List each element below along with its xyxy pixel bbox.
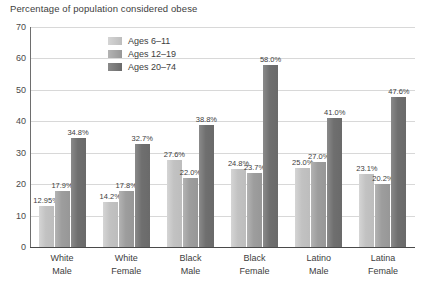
bar: 12.95%	[39, 206, 54, 247]
legend-swatch-icon	[108, 63, 122, 71]
bar-group: 25.0%27.0%41.0%	[295, 26, 342, 247]
chart-title: Percentage of population considered obes…	[10, 3, 197, 14]
y-axis-tick-label: 40	[16, 116, 26, 126]
x-axis-label: BlackMale	[158, 252, 222, 277]
bar: 34.8%	[71, 138, 86, 247]
y-axis-tick-label: 30	[16, 148, 26, 158]
bar-value-label: 22.0%	[180, 168, 201, 177]
bar: 47.6%	[391, 97, 406, 247]
x-axis-label-line: Male	[158, 265, 222, 278]
x-axis-label-line: Male	[30, 265, 94, 278]
x-axis-label-line: Latino	[287, 252, 351, 265]
y-axis-tick-label: 0	[21, 242, 26, 252]
bar: 32.7%	[135, 144, 150, 247]
x-axis-label: WhiteMale	[30, 252, 94, 277]
legend-label: Ages 6–11	[128, 36, 170, 46]
bar: 23.1%	[359, 174, 374, 247]
bar: 20.2%	[375, 184, 390, 247]
x-axis-label: BlackFemale	[223, 252, 287, 277]
x-axis-label-line: Black	[223, 252, 287, 265]
bar: 25.0%	[295, 168, 310, 247]
bar: 14.2%	[103, 202, 118, 247]
x-axis-label: LatinaFemale	[351, 252, 415, 277]
x-axis-label-line: Female	[223, 265, 287, 278]
bar: 22.0%	[183, 178, 198, 247]
y-axis-tick-label: 70	[16, 22, 26, 32]
bar-value-label: 23.1%	[356, 164, 377, 173]
bar-value-label: 47.6%	[388, 87, 409, 96]
x-axis-label-line: Female	[94, 265, 158, 278]
bar-value-label: 27.0%	[308, 152, 329, 161]
legend-swatch-icon	[108, 50, 122, 58]
y-axis-tick-label: 50	[16, 85, 26, 95]
bar-value-label: 38.8%	[196, 115, 217, 124]
bar-value-label: 17.8%	[116, 181, 137, 190]
bar-value-label: 58.0%	[260, 55, 281, 64]
bar: 27.0%	[311, 162, 326, 247]
x-axis-label-line: White	[30, 252, 94, 265]
bar-value-label: 23.7%	[244, 163, 265, 172]
y-axis-tick-label: 20	[16, 179, 26, 189]
chart-legend: Ages 6–11Ages 12–19Ages 20–74	[108, 34, 176, 73]
bar-value-label: 27.6%	[164, 150, 185, 159]
bar: 58.0%	[263, 65, 278, 247]
legend-item: Ages 20–74	[108, 60, 176, 73]
bar-value-label: 14.2%	[100, 192, 121, 201]
bar: 17.8%	[119, 191, 134, 247]
legend-item: Ages 6–11	[108, 34, 176, 47]
legend-item: Ages 12–19	[108, 47, 176, 60]
y-axis-tick-label: 60	[16, 53, 26, 63]
bar-value-label: 34.8%	[67, 128, 88, 137]
bar-series-layer: 12.95%17.9%34.8%14.2%17.8%32.7%27.6%22.0…	[30, 27, 415, 248]
x-axis-label-line: White	[94, 252, 158, 265]
bar: 38.8%	[199, 125, 214, 247]
bar-group: 24.8%23.7%58.0%	[231, 26, 278, 247]
y-axis-tick-label: 10	[16, 211, 26, 221]
x-axis-category-labels: WhiteMaleWhiteFemaleBlackMaleBlackFemale…	[30, 252, 415, 286]
bar: 17.9%	[55, 191, 70, 247]
plot-area: 010203040506070 12.95%17.9%34.8%14.2%17.…	[30, 27, 415, 248]
legend-label: Ages 12–19	[128, 49, 176, 59]
legend-label: Ages 20–74	[128, 62, 176, 72]
bar: 23.7%	[247, 173, 262, 247]
bar: 24.8%	[231, 169, 246, 247]
x-axis-label: WhiteFemale	[94, 252, 158, 277]
x-axis-label-line: Latina	[351, 252, 415, 265]
x-axis-label-line: Male	[287, 265, 351, 278]
bar-group: 23.1%20.2%47.6%	[359, 26, 406, 247]
x-axis-label-line: Black	[158, 252, 222, 265]
legend-swatch-icon	[108, 37, 122, 45]
bar-value-label: 32.7%	[132, 134, 153, 143]
bar: 41.0%	[327, 118, 342, 247]
x-axis-label-line: Female	[351, 265, 415, 278]
bar-value-label: 20.2%	[372, 174, 393, 183]
bar-group: 12.95%17.9%34.8%	[39, 26, 86, 247]
bar-value-label: 41.0%	[324, 108, 345, 117]
x-axis-label: LatinoMale	[287, 252, 351, 277]
bar-value-label: 17.9%	[51, 181, 72, 190]
